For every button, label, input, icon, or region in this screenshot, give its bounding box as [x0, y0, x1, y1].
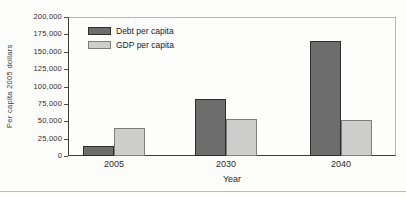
y-axis-tick-label: 50,000 — [14, 116, 62, 126]
bar-debt — [195, 99, 226, 156]
legend: Debt per capita GDP per capita — [88, 24, 174, 52]
y-axis-tick-mark — [64, 121, 68, 122]
y-axis-tick-label: 0 — [14, 151, 62, 161]
y-axis-tick-mark — [64, 34, 68, 35]
bar-chart-figure: Per capita 2005 dollars 025,00050,00075,… — [0, 0, 406, 197]
y-axis-tick-label: 100,000 — [14, 82, 62, 92]
y-axis-tick-label: 150,000 — [14, 47, 62, 57]
legend-swatch-gdp — [88, 41, 111, 49]
x-axis-tick-label: 2040 — [316, 159, 366, 169]
legend-item-debt: Debt per capita — [88, 24, 174, 38]
y-axis-tick-mark — [64, 87, 68, 88]
y-axis-tick-label: 25,000 — [14, 134, 62, 144]
y-axis-tick-mark — [64, 69, 68, 70]
legend-item-gdp: GDP per capita — [88, 38, 174, 52]
y-axis-tick-label: 175,000 — [14, 29, 62, 39]
y-axis-tick-label: 75,000 — [14, 99, 62, 109]
y-axis-tick-mark — [64, 17, 68, 18]
x-axis-tick-label: 2005 — [89, 159, 139, 169]
bar-gdp — [114, 128, 145, 156]
y-axis-tick-label: 125,000 — [14, 64, 62, 74]
y-axis-tick-label: 200,000 — [14, 12, 62, 22]
legend-swatch-debt — [88, 27, 111, 35]
bar-debt — [83, 146, 114, 156]
x-axis-tick-label: 2030 — [201, 159, 251, 169]
bar-debt — [310, 41, 341, 156]
y-axis-tick-mark — [64, 104, 68, 105]
legend-label-debt: Debt per capita — [116, 26, 174, 36]
bar-gdp — [226, 119, 257, 156]
y-axis-tick-mark — [64, 139, 68, 140]
x-axis-title: Year — [207, 174, 257, 184]
legend-label-gdp: GDP per capita — [116, 40, 174, 50]
y-axis-tick-mark — [64, 156, 68, 157]
y-axis-tick-mark — [64, 52, 68, 53]
bottom-rule — [0, 191, 406, 192]
bar-gdp — [341, 120, 372, 156]
